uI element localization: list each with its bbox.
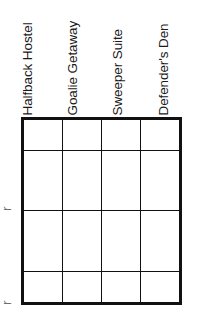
row-label-column: r r — [0, 0, 22, 320]
table-row — [24, 120, 179, 150]
row-label-text: r — [0, 207, 14, 212]
column-header-label: Defender's Den — [157, 23, 171, 115]
table-cell[interactable] — [63, 211, 102, 272]
data-grid — [21, 117, 182, 305]
grid-table — [24, 120, 179, 302]
table-cell[interactable] — [24, 150, 63, 211]
table-cell[interactable] — [102, 272, 141, 302]
column-header-label: Sweeper Suite — [111, 28, 125, 115]
table-cell[interactable] — [63, 272, 102, 302]
table-cell[interactable] — [140, 150, 179, 211]
grid-body — [24, 120, 179, 302]
table-cell[interactable] — [63, 150, 102, 211]
table-cell[interactable] — [24, 272, 63, 302]
table-cell[interactable] — [140, 211, 179, 272]
column-header-label: Goalie Getaway — [66, 20, 80, 115]
table-row — [24, 272, 179, 302]
table-row — [24, 150, 179, 211]
table-cell[interactable] — [140, 120, 179, 150]
table-cell[interactable] — [24, 211, 63, 272]
screenshot-root: Halfback Hostel Goalie Getaway Sweeper S… — [0, 0, 200, 320]
table-cell[interactable] — [102, 120, 141, 150]
table-cell[interactable] — [102, 211, 141, 272]
column-header-row: Halfback Hostel Goalie Getaway Sweeper S… — [0, 0, 200, 117]
table-row — [24, 211, 179, 272]
table-cell[interactable] — [24, 120, 63, 150]
table-cell[interactable] — [102, 150, 141, 211]
column-header-label: Halfback Hostel — [21, 22, 35, 115]
table-cell[interactable] — [63, 120, 102, 150]
row-label-text: r — [0, 301, 14, 306]
table-cell[interactable] — [140, 272, 179, 302]
